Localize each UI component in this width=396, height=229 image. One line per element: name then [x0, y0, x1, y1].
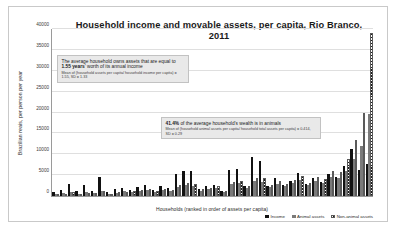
y-axis-tick-label: 0 — [46, 189, 49, 194]
bar-group — [243, 29, 251, 196]
legend-swatch-animal — [292, 215, 296, 219]
y-axis-tick-label: 30000 — [36, 63, 49, 68]
bar-group — [251, 29, 259, 196]
legend-item-income[interactable]: Income — [265, 214, 285, 219]
x-axis-label: Households (ranked in order of assets pe… — [51, 206, 373, 212]
bar-group — [258, 29, 266, 196]
bar-group — [266, 29, 274, 196]
bar-group — [350, 29, 358, 196]
y-axis-tick-label: 15000 — [36, 126, 49, 131]
bar-group — [335, 29, 343, 196]
bar-group — [358, 29, 366, 196]
bar-group — [274, 29, 282, 196]
y-axis-tick-label: 5000 — [39, 168, 49, 173]
bar-group — [304, 29, 312, 196]
annotation-assets-years-sub: Mean of (household assets per capita/ ho… — [62, 71, 185, 80]
annotation-wealth-animals-main: 41.4% of the average household’s wealth … — [166, 121, 317, 127]
bar-group — [235, 29, 243, 196]
bar-group — [220, 29, 228, 196]
bar-group — [342, 29, 350, 196]
y-axis-label-text: Brazilian reais, per person per year — [17, 71, 23, 155]
annotation-highlight: 41.4% — [166, 121, 180, 126]
bar-group — [281, 29, 289, 196]
bar-nonanimal — [370, 33, 372, 196]
annotation-assets-years: The average household owns assets that a… — [57, 55, 189, 83]
legend-swatch-income — [265, 215, 269, 219]
bar-group — [312, 29, 320, 196]
annotation-wealth-animals-sub: Mean of (household animal assets per cap… — [166, 127, 317, 136]
annotation-highlight: 1.55 years — [62, 64, 85, 69]
y-axis-tick-label: 10000 — [36, 147, 49, 152]
bar-group — [289, 29, 297, 196]
bar-group — [365, 29, 373, 196]
bar-group — [228, 29, 236, 196]
bar-group — [327, 29, 335, 196]
y-axis-tick-label: 35000 — [36, 42, 49, 47]
y-axis-tick-label: 20000 — [36, 105, 49, 110]
bar-group — [197, 29, 205, 196]
bar-group — [212, 29, 220, 196]
y-axis-tick-label: 40000 — [36, 22, 49, 27]
y-axis-label: Brazilian reais, per person per year — [15, 29, 25, 197]
chart-container: Household income and movable assets, per… — [8, 6, 388, 222]
legend-swatch-nonanimal — [331, 215, 335, 219]
legend-item-animal[interactable]: Animal assets — [292, 214, 325, 219]
legend-label: Income — [271, 214, 285, 219]
legend-item-nonanimal[interactable]: Non-animal assets — [331, 214, 373, 219]
bar-group — [319, 29, 327, 196]
y-axis-tick-label: 25000 — [36, 84, 49, 89]
bar-group — [205, 29, 213, 196]
chart-legend: IncomeAnimal assetsNon-animal assets — [265, 214, 373, 219]
legend-label: Non-animal assets — [337, 214, 373, 219]
annotation-assets-years-main: The average household owns assets that a… — [62, 59, 185, 70]
annotation-wealth-animals: 41.4% of the average household’s wealth … — [161, 117, 321, 139]
legend-label: Animal assets — [297, 214, 324, 219]
bar-group — [297, 29, 305, 196]
bar-group — [190, 29, 198, 196]
